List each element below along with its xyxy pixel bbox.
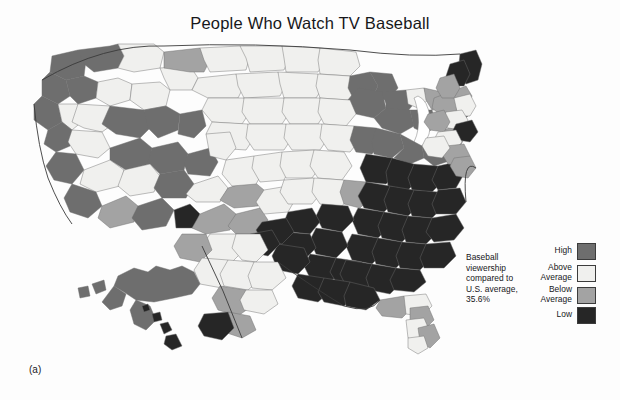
legend-swatch-above-average [577, 265, 596, 282]
map-region [46, 152, 84, 184]
map-region [316, 204, 354, 232]
map-region [390, 268, 426, 292]
choropleth-map [14, 38, 484, 358]
map-region [132, 198, 174, 230]
map-annotation-note: Baseball viewership compared to U.S. ave… [466, 252, 526, 305]
legend-label-low: Low [556, 310, 577, 320]
map-region [310, 150, 352, 180]
note-line-2: viewership [466, 263, 526, 274]
legend-item-below-average: Below Average [524, 285, 596, 305]
map-region [178, 110, 206, 138]
map-region [192, 204, 236, 234]
map-region [98, 196, 138, 228]
legend-item-low: Low [524, 307, 596, 323]
map-region [118, 44, 164, 72]
map-region [248, 262, 286, 290]
map-region [192, 74, 244, 98]
map-region [426, 214, 464, 242]
legend-item-above-average: Above Average [524, 263, 596, 283]
map-region-alaska [92, 280, 106, 294]
map-region [318, 48, 360, 76]
legend-label-below-average: Below Average [541, 285, 577, 304]
figure-label: (a) [29, 364, 41, 375]
note-line-4: U.S. average, [466, 284, 526, 295]
map-region-hawaii [164, 334, 182, 350]
legend-item-high: High [524, 243, 596, 259]
note-line-3: compared to [466, 273, 526, 284]
figure-panel: People Who Watch TV Baseball [0, 0, 620, 400]
legend-label-above-average: Above Average [541, 263, 577, 282]
map-region [66, 76, 98, 104]
legend-swatch-low [577, 307, 596, 324]
map-region [174, 234, 212, 262]
page-title: People Who Watch TV Baseball [0, 14, 620, 33]
map-region [408, 336, 428, 354]
legend-label-high: High [555, 246, 577, 256]
map-region [198, 312, 234, 340]
note-line-5: 35.6% [466, 294, 526, 305]
map-region-hawaii [152, 312, 162, 322]
map-region-alaska [114, 266, 200, 302]
map-region-alaska [78, 286, 90, 298]
map-region [310, 228, 348, 258]
legend-swatch-high [577, 243, 596, 260]
map-region [96, 78, 132, 106]
legend-swatch-below-average [577, 287, 596, 304]
map-region [432, 188, 466, 214]
note-line-1: Baseball [466, 252, 526, 263]
map-region [144, 106, 180, 138]
map-region [130, 82, 170, 110]
map-region [318, 98, 356, 126]
map-region [206, 132, 236, 160]
map-region-hawaii [160, 322, 172, 334]
map-region [240, 290, 278, 314]
map-region [420, 242, 456, 268]
map-legend: High Above Average Below Average Low [524, 243, 596, 327]
